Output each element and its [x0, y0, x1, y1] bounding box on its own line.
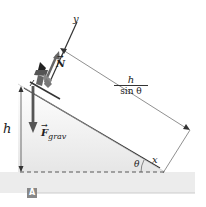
gravity-subscript: grav [48, 132, 66, 141]
y-axis-label: y [73, 13, 79, 24]
angle-label: θ [134, 159, 139, 169]
height-label: h [3, 121, 11, 136]
x-axis-label: x [152, 154, 158, 165]
panel-badge: A [27, 188, 37, 198]
hyp-numerator: h [114, 74, 148, 86]
gravity-force-label: → Fgrav [41, 127, 66, 141]
normal-force-label: → N [56, 58, 65, 69]
hyp-denominator: sin θ [114, 86, 148, 96]
diagram-graphics [0, 0, 206, 207]
hypotenuse-label: h sin θ [114, 74, 148, 96]
incline-diagram: y x → N → Fgrav h θ h sin θ A [0, 0, 206, 207]
hyp-extension-line [163, 130, 190, 173]
